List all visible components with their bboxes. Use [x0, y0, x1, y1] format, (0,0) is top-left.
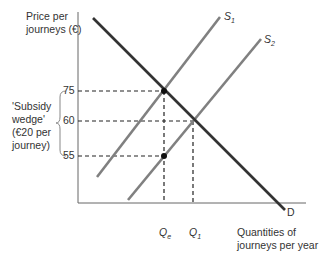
label-qe: Qe — [159, 226, 171, 243]
y-axis-label: Price per journeys (€) — [26, 10, 81, 36]
label-d: D — [287, 206, 295, 219]
tick-75: 75 — [63, 84, 75, 96]
equilibrium-point-initial — [161, 88, 167, 94]
tick-55: 55 — [63, 149, 75, 161]
label-s2: S2 — [264, 33, 275, 50]
x-axis-label: Quantities of journeys per year — [237, 226, 318, 252]
label-s1: S1 — [224, 10, 235, 27]
label-q1: Q1 — [189, 226, 201, 243]
subsidy-point-qe — [161, 153, 167, 159]
tick-60: 60 — [63, 114, 75, 126]
subsidy-wedge-label: 'Subsidy wedge' (€20 per journey) — [12, 100, 51, 152]
